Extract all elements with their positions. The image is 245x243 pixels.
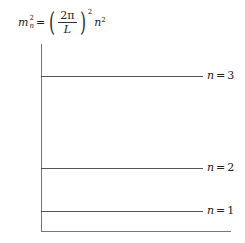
paren-sup: 2 [88, 8, 92, 16]
baseline [41, 231, 231, 232]
fraction-numerator: 2π [58, 9, 76, 23]
level-line-n2 [41, 168, 203, 169]
right-paren: ) [80, 9, 86, 35]
formula-lhs-var: m [18, 16, 28, 29]
formula-rhs-sup: 2 [101, 16, 105, 24]
level-label-n1: n=1 [207, 204, 234, 217]
level-line-n3 [41, 76, 203, 77]
level-label-n3: n=3 [207, 69, 234, 82]
formula-lhs-sup: 2 [29, 14, 34, 22]
fraction-denominator: L [64, 23, 71, 36]
formula-lhs-sub: n [29, 22, 34, 30]
left-paren: ( [49, 9, 55, 35]
formula-rhs-var: n [94, 16, 101, 29]
formula-equals: = [36, 16, 45, 29]
level-line-n1 [41, 211, 203, 212]
level-label-n2: n=2 [207, 161, 234, 174]
mass-formula: m 2 n = ( 2π L ) 2 n 2 [18, 4, 106, 40]
formula-fraction: 2π L [58, 9, 76, 36]
energy-axis [41, 44, 42, 232]
